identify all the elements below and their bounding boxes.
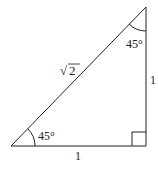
bottom-left-angle-arc <box>28 129 35 146</box>
bottom-leg-label: 1 <box>75 149 81 163</box>
top-angle-arc <box>129 24 146 31</box>
hypotenuse-label: √ 2 <box>60 63 80 78</box>
radicand: 2 <box>69 63 76 78</box>
bottom-left-angle-label: 45° <box>38 129 55 143</box>
triangle-shape <box>11 7 146 146</box>
triangle-diagram: 45° 45° 1 1 √ 2 <box>0 0 158 169</box>
right-leg-label: 1 <box>150 73 156 87</box>
radical-sign: √ <box>60 63 68 78</box>
top-angle-label: 45° <box>126 37 143 51</box>
right-angle-marker <box>132 132 146 146</box>
